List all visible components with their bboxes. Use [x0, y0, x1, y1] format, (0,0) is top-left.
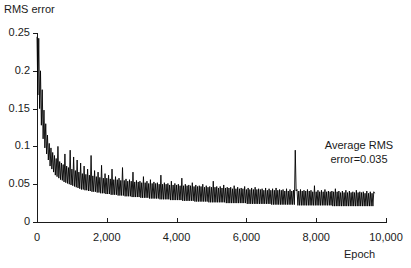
rms-error-chart: RMS error Epoch Average RMS error=0.035 … — [0, 0, 411, 268]
x-tick-label: 10,000 — [356, 232, 411, 243]
rms-error-series — [37, 37, 375, 206]
y-tick-label: 0.2 — [0, 65, 30, 76]
y-tick-label: 0.1 — [0, 140, 30, 151]
x-tick-label: 6,000 — [216, 232, 276, 243]
y-tick-label: 0.25 — [0, 27, 30, 38]
x-tick-label: 2,000 — [77, 232, 137, 243]
x-tick-label: 0 — [7, 232, 67, 243]
y-tick-label: 0.15 — [0, 103, 30, 114]
y-tick-label: 0 — [0, 216, 30, 227]
x-tick-label: 8,000 — [286, 232, 346, 243]
y-tick-label: 0.05 — [0, 178, 30, 189]
plot-canvas — [0, 0, 411, 268]
x-tick-label: 4,000 — [147, 232, 207, 243]
